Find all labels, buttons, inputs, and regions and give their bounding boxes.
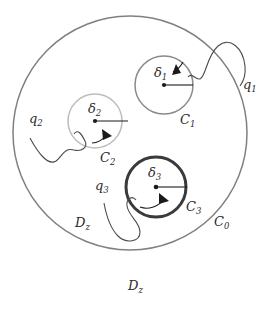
flow-curve-q3 (104, 198, 140, 241)
flow-label-q3: q3 (95, 178, 109, 195)
radius-label-delta3: δ3 (148, 165, 161, 182)
flow-label-q1: q1 (243, 77, 257, 94)
orientation-arrowhead-C1 (172, 64, 181, 75)
complex-domain-diagram: C0 C1 C2 C3 δ1 δ2 δ3 q1 q2 q3 Dz Dz (0, 0, 275, 311)
orientation-arrowhead-C3 (159, 193, 169, 204)
orientation-arrowhead-C2 (102, 129, 112, 140)
contour-label-C2: C2 (100, 150, 115, 167)
contour-label-C3: C3 (186, 199, 201, 216)
radius-label-delta1: δ1 (154, 65, 167, 82)
contour-label-C0: C0 (214, 214, 230, 231)
domain-label-outer: Dz (127, 278, 143, 295)
domain-label-inner: Dz (74, 215, 90, 232)
flow-curve-q2 (30, 132, 86, 162)
radius-label-delta2: δ2 (88, 101, 101, 118)
flow-curve-q1 (188, 42, 245, 86)
contour-circle-C0 (13, 16, 247, 250)
flow-label-q2: q2 (29, 111, 43, 128)
figure-container: C0 C1 C2 C3 δ1 δ2 δ3 q1 q2 q3 Dz Dz (0, 0, 275, 311)
contour-label-C1: C1 (180, 112, 195, 129)
